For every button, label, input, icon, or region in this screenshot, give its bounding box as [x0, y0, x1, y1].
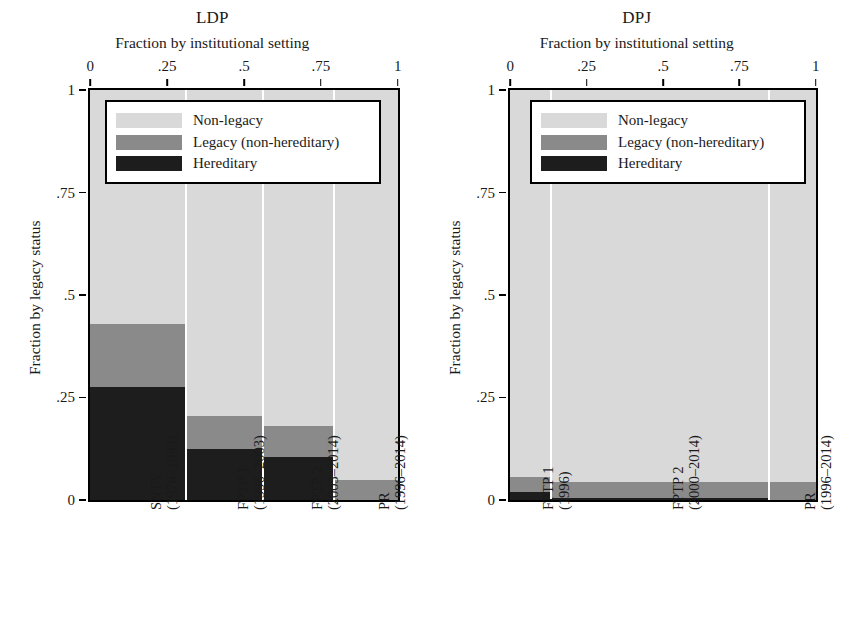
legend-label: Non-legacy: [618, 112, 688, 129]
x-axis-tick-label: 0: [506, 58, 514, 75]
category-label-line1: FPTP 1: [540, 467, 556, 510]
y-axis-tick: [79, 294, 86, 296]
x-axis-category-label: FPTP 2(2000–2014): [670, 435, 702, 510]
x-axis-tick: [739, 79, 741, 86]
bar-segment-legacy: [552, 482, 771, 498]
y-axis-tick: [79, 499, 86, 501]
x-axis-tick-label: .25: [158, 58, 177, 75]
legend-swatch-legacy: [116, 135, 182, 150]
x-axis-category-label: FPTP 1(1996–2003): [235, 435, 267, 510]
category-label-line2: (1996–2014): [392, 435, 408, 510]
legend-item-legacy[interactable]: Legacy (non-hereditary): [116, 132, 367, 152]
x-axis-category-label: PR(1996–2014): [802, 435, 834, 510]
y-axis-tick-label: .75: [462, 184, 495, 201]
category-label-line2: (2005–2014): [325, 435, 341, 510]
y-axis-tick: [79, 397, 86, 399]
category-label-line1: PR: [802, 435, 818, 510]
x-axis-tick: [166, 79, 168, 86]
x-axis-tick-label: 1: [812, 58, 820, 75]
x-axis-tick-label: .75: [312, 58, 331, 75]
category-label-line2: (1996–2014): [818, 435, 834, 510]
legend-item-nonlegacy[interactable]: Non-legacy: [116, 111, 367, 131]
chart-panel-dpj: DPJ Fraction by institutional setting 0.…: [425, 0, 849, 637]
category-label-line1: FPTP 2: [309, 435, 325, 510]
y-axis-tick-label: 0: [462, 491, 495, 508]
legend-label: Non-legacy: [193, 112, 263, 129]
y-axis-tick-label: .25: [462, 389, 495, 406]
legend-swatch-nonlegacy: [541, 113, 607, 128]
chart-panel-ldp: LDP Fraction by institutional setting 0.…: [0, 0, 425, 637]
y-axis-title: Fraction by legacy status: [26, 220, 44, 375]
x-axis-tick: [815, 79, 817, 86]
y-axis-title: Fraction by legacy status: [446, 220, 464, 375]
legend-label: Hereditary: [193, 155, 257, 172]
x-axis-tick-label: .5: [238, 58, 249, 75]
x-axis-tick-label: 1: [394, 58, 402, 75]
category-label-line2: (1976–1993): [164, 435, 180, 510]
legend-item-legacy[interactable]: Legacy (non-hereditary): [541, 132, 792, 152]
legend-swatch-nonlegacy: [116, 113, 182, 128]
x-axis-tick: [509, 79, 511, 86]
y-axis-tick: [499, 294, 506, 296]
category-label-line1: FPTP 1: [235, 435, 251, 510]
x-axis-tick: [320, 79, 322, 86]
category-label-line2: (2000–2014): [687, 435, 703, 510]
x-axis-tick-label: 0: [86, 58, 94, 75]
x-axis-tick: [89, 79, 91, 86]
x-axis-title-dpj: Fraction by institutional setting: [425, 34, 849, 52]
figure-panels: LDP Fraction by institutional setting 0.…: [0, 0, 849, 637]
x-axis-category-label: SNTV(1976–1993): [148, 435, 180, 510]
x-axis-category-label: FPTP 2(2005–2014): [309, 435, 341, 510]
y-axis-tick-label: 0: [42, 491, 75, 508]
y-axis-tick-label: 1: [42, 82, 75, 99]
y-axis-tick: [499, 499, 506, 501]
x-axis-tick: [397, 79, 399, 86]
y-axis-tick-label: .5: [42, 287, 75, 304]
legend-swatch-hereditary: [116, 156, 182, 171]
category-label-line1: SNTV: [148, 435, 164, 510]
category-label-line1: FPTP 2: [670, 435, 686, 510]
legend-swatch-legacy: [541, 135, 607, 150]
legend-label: Legacy (non-hereditary): [193, 134, 339, 151]
category-label-line1: PR: [376, 435, 392, 510]
y-axis-tick: [499, 192, 506, 194]
y-axis-tick: [79, 192, 86, 194]
legend-item-hereditary[interactable]: Hereditary: [116, 154, 367, 174]
legend-item-nonlegacy[interactable]: Non-legacy: [541, 111, 792, 131]
category-label-line2: (1996–2003): [251, 435, 267, 510]
x-axis-tick-label: .75: [730, 58, 749, 75]
y-axis-tick: [499, 397, 506, 399]
x-axis-tick-label: .25: [577, 58, 596, 75]
legend: Non-legacyLegacy (non-hereditary)Heredit…: [105, 100, 381, 184]
x-axis-tick: [586, 79, 588, 86]
legend-swatch-hereditary: [541, 156, 607, 171]
x-axis-category-label: FPTP 1(1996): [540, 467, 572, 510]
legend-label: Hereditary: [618, 155, 682, 172]
category-label-line2: (1996): [556, 467, 572, 510]
bar-segment-legacy: [90, 324, 187, 387]
legend: Non-legacyLegacy (non-hereditary)Heredit…: [530, 100, 806, 184]
y-axis-tick-label: .5: [462, 287, 495, 304]
x-axis-tick: [662, 79, 664, 86]
y-axis-tick-label: 1: [462, 82, 495, 99]
bar-segment-hereditary: [552, 498, 771, 500]
y-axis-tick: [499, 89, 506, 91]
legend-item-hereditary[interactable]: Hereditary: [541, 154, 792, 174]
x-axis-tick: [243, 79, 245, 86]
x-axis-tick-label: .5: [657, 58, 668, 75]
y-axis-tick: [79, 89, 86, 91]
panel-title-ldp: LDP: [0, 8, 425, 28]
y-axis-tick-label: .25: [42, 389, 75, 406]
x-axis-title-ldp: Fraction by institutional setting: [0, 34, 425, 52]
y-axis-tick-label: .75: [42, 184, 75, 201]
x-axis-category-label: PR(1996–2014): [376, 435, 408, 510]
panel-title-dpj: DPJ: [425, 8, 849, 28]
legend-label: Legacy (non-hereditary): [618, 134, 764, 151]
